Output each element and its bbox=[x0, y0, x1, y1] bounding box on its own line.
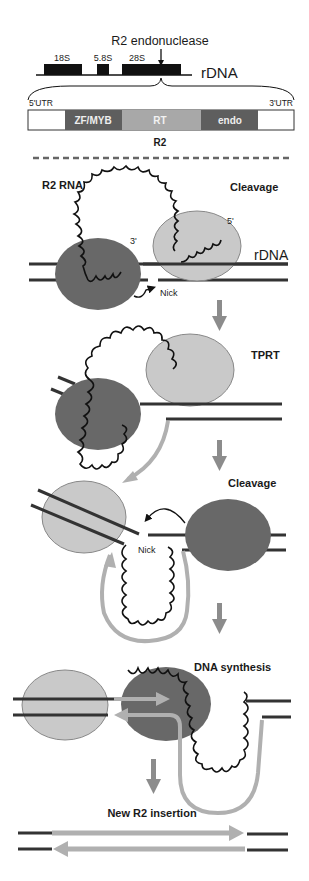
gene-18s bbox=[44, 64, 82, 75]
utr3-label: 3'UTR bbox=[269, 98, 293, 108]
step-title: Cleavage bbox=[228, 477, 276, 489]
step-title: DNA synthesis bbox=[194, 661, 271, 673]
r2-label: R2 bbox=[154, 137, 167, 148]
step-title: TPRT bbox=[251, 349, 280, 361]
gene-label-28s: 28S bbox=[129, 53, 145, 63]
gene-28s bbox=[122, 64, 181, 75]
step-new-insertion: New R2 insertion bbox=[18, 807, 288, 857]
svg-text:RT: RT bbox=[153, 115, 166, 126]
rdna-label: rDNA bbox=[201, 64, 238, 81]
step-title: New R2 insertion bbox=[107, 807, 197, 819]
svg-text:Nick: Nick bbox=[160, 288, 178, 298]
step-arrow-icon bbox=[212, 440, 227, 471]
step-arrow-icon bbox=[146, 759, 161, 794]
svg-text:Nick: Nick bbox=[138, 545, 156, 555]
protein-dark bbox=[55, 238, 141, 310]
svg-text:ZF/MYB: ZF/MYB bbox=[74, 115, 111, 126]
gene-5-8s bbox=[97, 64, 109, 75]
step-cleavage-1: R2 RNA Cleavage 3' 5' rDNA Nick bbox=[29, 166, 289, 310]
svg-text:endo: endo bbox=[218, 115, 242, 126]
svg-text:3': 3' bbox=[130, 236, 137, 246]
utr5-label: 5'UTR bbox=[29, 98, 53, 108]
nick-arrow-icon bbox=[147, 509, 185, 523]
step-arrow-icon bbox=[212, 603, 227, 634]
step-arrow-icon bbox=[212, 300, 227, 331]
rdna-label-step1: rDNA bbox=[254, 247, 289, 263]
gene-label-5-8s: 5.8S bbox=[94, 53, 113, 63]
gene-label-18s: 18S bbox=[54, 53, 70, 63]
r2-rna-label: R2 RNA bbox=[42, 179, 83, 191]
svg-text:5': 5' bbox=[227, 216, 234, 226]
endonuclease-label: R2 endonuclease bbox=[111, 34, 208, 48]
r2-element-bar: 5'UTR 3'UTR ZF/MYB RT endo R2 bbox=[28, 98, 294, 148]
rdna-map: R2 endonuclease 18S 5.8S 28S rDNA bbox=[28, 34, 294, 100]
expansion-brace bbox=[28, 78, 294, 100]
step-tprt: TPRT bbox=[51, 326, 282, 483]
step-cleavage-2: Cleavage Nick bbox=[31, 477, 286, 641]
step-title: Cleavage bbox=[230, 181, 278, 193]
